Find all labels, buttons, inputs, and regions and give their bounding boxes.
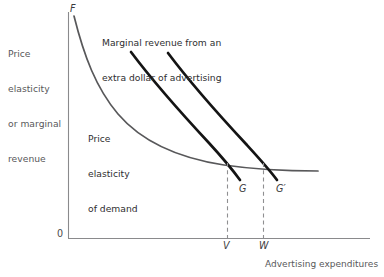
chart-figure: Price elasticity or marginal revenue 0 M… [0, 0, 384, 277]
x-tick-label-w: W [259, 240, 269, 252]
annotation-price-elasticity-of-demand: Price elasticity of demand [88, 110, 138, 238]
origin-label: 0 [57, 228, 63, 240]
curve-label-g: G [239, 183, 246, 195]
annotation-price-elasticity-line-1: Price [88, 133, 138, 145]
annotation-price-elasticity-line-3: of demand [88, 203, 138, 215]
x-tick-label-v: V [223, 240, 230, 252]
y-axis-title-line-3: or marginal [8, 118, 61, 130]
y-axis-title-line-2: elasticity [8, 83, 61, 95]
annotation-price-elasticity-line-2: elasticity [88, 168, 138, 180]
curve-label-f: F [70, 3, 76, 15]
annotation-marginal-revenue: Marginal revenue from an extra dollar of… [102, 14, 222, 107]
annotation-marginal-revenue-line-1: Marginal revenue from an [102, 37, 222, 49]
x-axis-title: Advertising expenditures [265, 259, 378, 271]
y-axis-title: Price elasticity or marginal revenue [8, 25, 61, 187]
y-axis-title-line-4: revenue [8, 153, 61, 165]
annotation-marginal-revenue-line-2: extra dollar of advertising [102, 72, 222, 84]
y-axis-title-line-1: Price [8, 48, 61, 60]
curve-label-g-prime: G′ [276, 183, 286, 195]
